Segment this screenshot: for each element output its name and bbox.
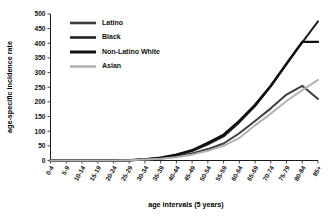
series-line-latino [51, 86, 319, 161]
y-axis-tick-labels: 050100150200250300350400450500 [34, 10, 45, 164]
y-tick-label: 150 [34, 113, 45, 120]
x-tick-label: 60-64 [230, 164, 244, 182]
y-tick-label: 200 [34, 98, 45, 105]
incidence-rate-line-chart: 050100150200250300350400450500 0-45-910-… [0, 0, 332, 218]
data-series-group [51, 21, 319, 160]
series-line-black [51, 21, 319, 160]
x-tick-label: 30-34 [135, 164, 149, 182]
x-tick-label: 10-14 [72, 164, 86, 182]
x-tick-label: 80-84 [293, 164, 307, 182]
series-line-asian [51, 80, 319, 161]
chart-legend: LatinoBlackNon-Latino WhiteAsian [70, 19, 160, 70]
y-tick-label: 0 [42, 157, 46, 164]
legend-label-asian: Asian [102, 62, 121, 69]
y-tick-label: 300 [34, 69, 45, 76]
x-tick-label: 25-29 [119, 164, 133, 182]
y-tick-label: 250 [34, 84, 45, 91]
y-tick-label: 350 [34, 54, 45, 61]
x-tick-label: 20-24 [104, 164, 118, 182]
x-tick-label: 55-59 [214, 164, 228, 182]
y-tick-label: 500 [34, 10, 45, 17]
legend-label-latino: Latino [102, 19, 123, 26]
x-tick-label: 50-54 [198, 164, 212, 182]
y-axis-title: age-specific incidence rate [5, 41, 14, 133]
x-axis: 0-45-910-1415-1920-2425-2930-3435-3940-4… [44, 161, 322, 182]
x-axis-tick-labels: 0-45-910-1415-1920-2425-2930-3435-3940-4… [44, 164, 322, 182]
x-tick-label: 45-49 [182, 164, 196, 182]
y-tick-label: 50 [38, 142, 46, 149]
y-tick-label: 400 [34, 40, 45, 47]
x-tick-label: 75-79 [277, 164, 291, 182]
x-tick-label: 5-9 [60, 164, 71, 176]
x-tick-label: 40-44 [167, 164, 181, 182]
x-tick-label: 15-19 [88, 164, 102, 182]
legend-label-black: Black [102, 33, 121, 40]
legend-label-non-latino-white: Non-Latino White [102, 48, 160, 55]
x-tick-label: 0-4 [44, 164, 55, 176]
y-axis: 050100150200250300350400450500 [34, 10, 50, 164]
x-tick-label: 65-69 [245, 164, 259, 182]
x-tick-label: 85+ [311, 164, 323, 177]
y-tick-label: 100 [34, 128, 45, 135]
x-tick-label: 35-39 [151, 164, 165, 182]
y-tick-label: 450 [34, 25, 45, 32]
x-axis-title: age intervals (5 years) [148, 200, 224, 209]
x-tick-label: 70-74 [261, 164, 275, 182]
chart-container: 050100150200250300350400450500 0-45-910-… [0, 0, 332, 218]
